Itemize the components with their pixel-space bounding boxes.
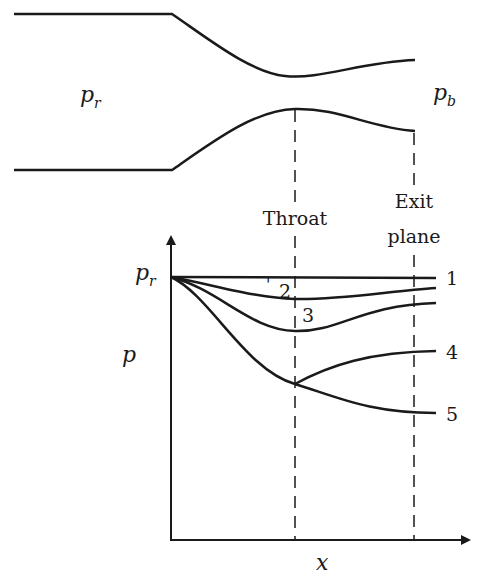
y-axis-label: p xyxy=(122,342,136,367)
inlet-pressure-label: pr xyxy=(80,82,102,111)
curve-label-3: 3 xyxy=(302,304,314,326)
nozzle-top-wall xyxy=(14,14,415,77)
curve-label-1: 1 xyxy=(446,267,458,289)
back-pressure-label: pb xyxy=(433,80,456,109)
plane-label: plane xyxy=(387,225,440,247)
nozzle-bottom-wall xyxy=(14,109,415,170)
nozzle-diagram: pr pb Throat Exit plane p x pr 1 2 ' 3 4… xyxy=(0,0,481,585)
curve-1 xyxy=(171,277,436,278)
throat-label: Throat xyxy=(263,207,328,229)
curve-label-4: 4 xyxy=(446,341,458,363)
curve-2 xyxy=(171,277,436,299)
curve-5 xyxy=(171,277,436,413)
curve-label-5: 5 xyxy=(446,403,458,425)
x-axis-label: x xyxy=(316,550,329,575)
curve-2-tick-mark: ' xyxy=(266,275,270,294)
exit-label: Exit xyxy=(395,190,434,212)
curve-4 xyxy=(295,351,436,384)
curve-label-2: 2 xyxy=(279,280,291,302)
reservoir-pressure-ref-label: pr xyxy=(135,260,157,289)
pressure-curves xyxy=(171,277,436,413)
nozzle-geometry xyxy=(14,14,415,170)
